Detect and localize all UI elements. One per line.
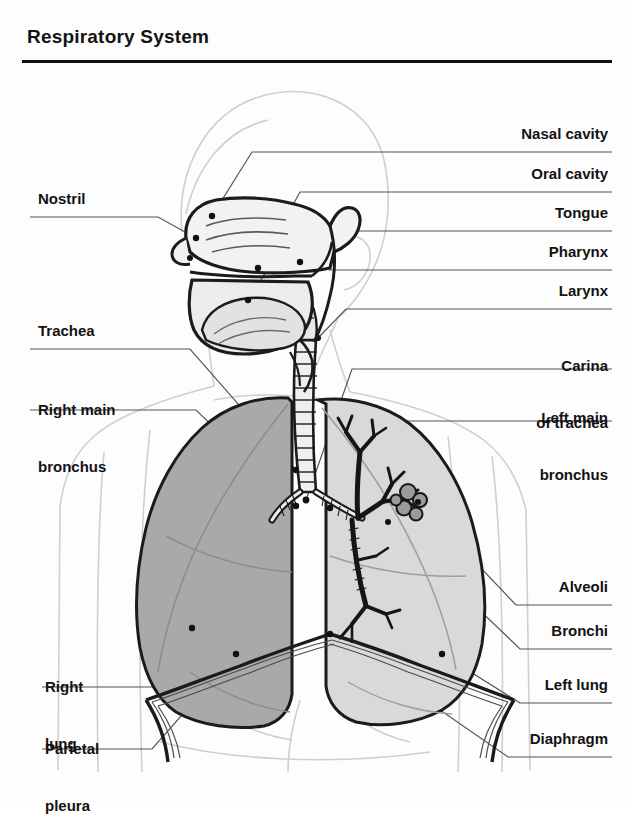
label-left-lung: Left lung: [545, 675, 608, 694]
dot-nostril: [193, 235, 199, 241]
label-parietal-pleura: Parietal pleura: [45, 701, 99, 818]
dot-left-lung: [439, 651, 445, 657]
label-right-main-bronchus-line1: Right main: [38, 400, 116, 419]
label-nasal-cavity: Nasal cavity: [521, 124, 608, 143]
label-trachea: Trachea: [38, 321, 95, 340]
label-right-main-bronchus: Right main bronchus: [38, 362, 116, 514]
label-bronchi: Bronchi: [551, 621, 608, 640]
label-nostril: Nostril: [38, 189, 86, 208]
dot-left-main-bronchus: [327, 505, 333, 511]
dot-oral-cavity: [255, 265, 261, 271]
label-larynx: Larynx: [559, 281, 608, 300]
dot-carina: [303, 497, 310, 504]
leader-nostril: [30, 217, 196, 238]
right-lung: [137, 398, 292, 728]
dot-nasal-cavity: [209, 213, 215, 219]
dot-pharynx: [297, 259, 303, 265]
label-diaphragm: Diaphragm: [530, 729, 608, 748]
label-alveoli: Alveoli: [559, 577, 608, 596]
dot-trachea: [293, 467, 299, 473]
dot-alveoli: [415, 499, 421, 505]
label-pharynx: Pharynx: [549, 242, 608, 261]
label-left-main-bronchus-line2: bronchus: [540, 465, 608, 484]
label-left-main-bronchus: Left main bronchus: [540, 370, 608, 522]
label-parietal-pleura-line1: Parietal: [45, 739, 99, 758]
head-section: [172, 198, 360, 392]
label-left-main-bronchus-line1: Left main: [540, 408, 608, 427]
leader-pharynx: [300, 262, 612, 270]
label-right-lung-line1: Right: [45, 677, 83, 696]
dot-right-lung: [189, 625, 195, 631]
dot-parietal-pleura: [233, 651, 239, 657]
label-tongue: Tongue: [555, 203, 608, 222]
dot-right-main-bronchus: [293, 503, 299, 509]
dot-bronchi: [385, 519, 391, 525]
left-lung: [318, 399, 485, 725]
dot-diaphragm: [327, 631, 333, 637]
label-right-main-bronchus-line2: bronchus: [38, 457, 116, 476]
dot-tongue: [245, 297, 251, 303]
label-oral-cavity: Oral cavity: [531, 164, 608, 183]
label-parietal-pleura-line2: pleura: [45, 796, 99, 815]
